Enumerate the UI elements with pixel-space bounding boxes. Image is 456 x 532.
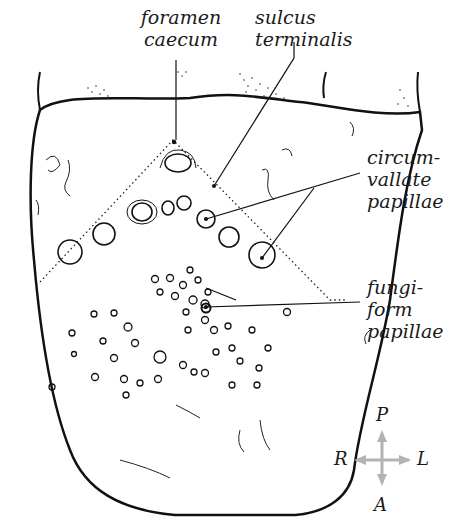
label-line: form — [367, 298, 443, 320]
label-line: circum- — [367, 146, 443, 168]
right-wall-line — [417, 72, 420, 112]
direction-anterior: A — [374, 494, 387, 515]
left-wall-line — [38, 72, 40, 110]
label-fungiform-papillae: fungi- form papillae — [367, 276, 443, 342]
direction-left: L — [417, 448, 429, 469]
stipple-left — [87, 71, 187, 97]
direction-right: R — [334, 448, 348, 469]
label-line: fungi- — [367, 276, 443, 298]
label-line: foramen — [126, 6, 236, 28]
label-foramen-caecum: foramen caecum — [126, 6, 236, 50]
label-line: papillae — [367, 190, 443, 212]
label-sulcus-terminalis: sulcus terminalis — [255, 6, 353, 50]
label-line: papillae — [367, 320, 443, 342]
label-line: sulcus — [255, 6, 353, 28]
label-line: caecum — [126, 28, 236, 50]
label-line: vallate — [367, 168, 443, 190]
epiglottis-line — [323, 72, 326, 98]
orientation-compass — [354, 430, 411, 486]
tongue-outline — [31, 95, 422, 515]
label-line: terminalis — [255, 28, 353, 50]
label-circumvallate-papillae: circum- vallate papillae — [367, 146, 443, 212]
direction-posterior: P — [376, 404, 388, 425]
tongue-diagram — [0, 0, 456, 532]
